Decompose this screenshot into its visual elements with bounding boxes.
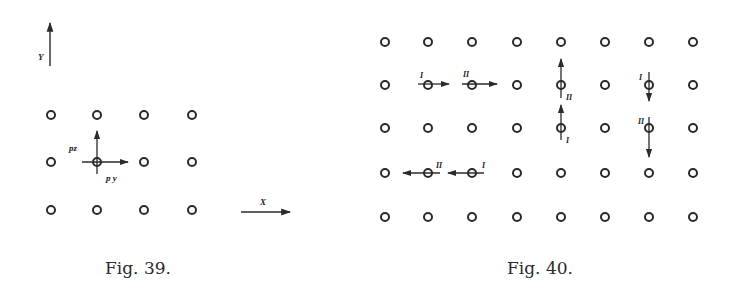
lattice-site xyxy=(689,124,697,132)
lattice-site xyxy=(645,213,653,221)
lattice-site xyxy=(381,81,389,89)
mode-label-II: II xyxy=(565,93,573,102)
lattice-site xyxy=(47,111,55,119)
lattice-site xyxy=(689,38,697,46)
mode-label-I: I xyxy=(419,71,424,80)
lattice-site xyxy=(93,111,101,119)
lattice-site xyxy=(601,213,609,221)
lattice-site xyxy=(689,169,697,177)
mode-label-I: I xyxy=(481,161,486,170)
lattice-site xyxy=(601,81,609,89)
lattice-site xyxy=(645,38,653,46)
fig40-caption: Fig. 40. xyxy=(507,258,573,278)
mode-label-II: II xyxy=(435,161,443,170)
lattice-site xyxy=(468,81,476,89)
y-axis-label: Y xyxy=(38,52,45,62)
lattice-site xyxy=(468,38,476,46)
fig39-caption: Fig. 39. xyxy=(105,258,171,278)
lattice-site xyxy=(557,169,565,177)
lattice-site xyxy=(424,38,432,46)
lattice-site xyxy=(468,124,476,132)
lattice-site xyxy=(381,124,389,132)
lattice-site xyxy=(47,158,55,166)
pz-label: pz xyxy=(68,143,78,153)
figure-canvas: Y X pz p y xyxy=(0,0,737,302)
lattice-site xyxy=(140,206,148,214)
lattice-site xyxy=(689,213,697,221)
displacement-arrow-icon: I xyxy=(638,72,649,101)
mode-label-II: II xyxy=(462,70,470,79)
lattice-site xyxy=(424,213,432,221)
lattice-site xyxy=(557,38,565,46)
mode-label-I: I xyxy=(565,136,570,145)
lattice-site xyxy=(188,158,196,166)
lattice-site xyxy=(513,81,521,89)
lattice-site xyxy=(140,158,148,166)
lattice-site xyxy=(381,38,389,46)
pz-vector-arrow-icon: pz xyxy=(68,131,97,174)
mode-label-II: II xyxy=(637,117,645,126)
lattice-site xyxy=(513,169,521,177)
lattice-site xyxy=(513,124,521,132)
x-axis-arrow-icon: X xyxy=(241,197,290,212)
fig39-diagram: Y X pz p y xyxy=(38,23,290,214)
lattice-site xyxy=(188,206,196,214)
displacement-arrow-icon: II xyxy=(637,117,649,157)
lattice-site xyxy=(689,81,697,89)
lattice-site xyxy=(424,81,432,89)
y-axis-arrow-icon: Y xyxy=(38,23,50,66)
lattice-site xyxy=(381,169,389,177)
displacement-arrow-icon: II xyxy=(462,70,497,84)
lattice-site xyxy=(513,38,521,46)
lattice-site xyxy=(381,213,389,221)
lattice-site xyxy=(93,206,101,214)
lattice-site xyxy=(601,169,609,177)
displacement-arrow-icon: I xyxy=(418,71,449,84)
lattice-site xyxy=(557,213,565,221)
lattice-site xyxy=(188,111,196,119)
lattice-site xyxy=(424,124,432,132)
lattice-site xyxy=(47,206,55,214)
lattice-site xyxy=(140,111,148,119)
lattice-site xyxy=(601,124,609,132)
lattice-site xyxy=(513,213,521,221)
x-axis-label: X xyxy=(259,197,267,207)
py-label: p y xyxy=(105,173,118,183)
displacement-arrow-icon: II xyxy=(403,161,443,173)
py-vector-arrow-icon: p y xyxy=(82,162,128,183)
lattice-site xyxy=(468,213,476,221)
lattice-site xyxy=(601,38,609,46)
mode-label-I: I xyxy=(638,73,643,82)
fig40-diagram: I II II I I II II I xyxy=(381,38,697,221)
displacement-arrow-icon: I xyxy=(448,161,486,173)
lattice-site xyxy=(645,169,653,177)
